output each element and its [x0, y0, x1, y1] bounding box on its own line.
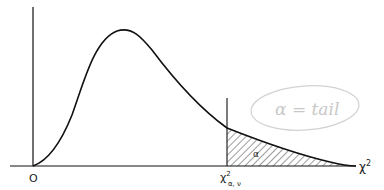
- density-curve: [33, 30, 356, 166]
- shaded-tail-region: [227, 128, 356, 166]
- chi-square-diagram: O χ2 χ2 α, ν α α = tail: [0, 0, 384, 190]
- annotation-text: α = tail: [275, 99, 339, 119]
- origin-label: O: [29, 172, 38, 185]
- critical-value-subscript: α, ν: [228, 180, 241, 188]
- shaded-area-label: α: [253, 149, 259, 159]
- x-axis-label: χ2: [359, 159, 371, 174]
- handwritten-annotation: α = tail: [250, 82, 361, 133]
